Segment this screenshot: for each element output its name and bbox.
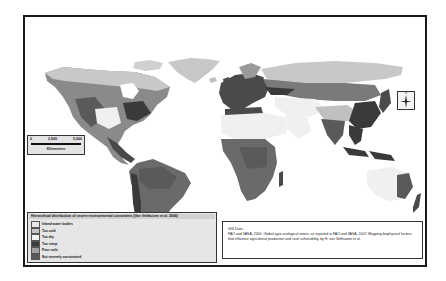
legend-label: Inland water bodies (42, 222, 73, 226)
map-frame: 0 2,500 5,000 Kilometers N Hierarchical … (23, 15, 427, 267)
scale-tick: 2,500 (48, 137, 57, 142)
sahara (221, 111, 287, 139)
legend-title: Hierarchical distribution of severe envi… (29, 214, 215, 219)
scale-bar: 0 2,500 5,000 Kilometers (27, 135, 85, 155)
source-heading: GIS Data: (228, 227, 243, 231)
legend-item: Not severely constrained (31, 254, 81, 261)
north-arrow: N (397, 91, 415, 110)
china-east (349, 101, 381, 129)
source-text: FAO and IIASA, 2000, Global agro-ecologi… (228, 232, 417, 242)
legend-items: Inland water bodies Too cold Too dry Too… (31, 221, 81, 260)
indonesia-2 (369, 151, 395, 161)
source-box: GIS Data: FAO and IIASA, 2000, Global ag… (222, 221, 423, 259)
india (321, 119, 345, 145)
north-arrow-icon (400, 95, 412, 108)
legend: Hierarchical distribution of severe envi… (27, 212, 217, 263)
iceland (209, 77, 217, 83)
arabia (285, 115, 311, 139)
legend-label: Not severely constrained (42, 255, 81, 259)
scale-bar-line (31, 143, 81, 145)
korea-japan (379, 89, 391, 113)
legend-label: Poor soils (42, 248, 58, 252)
scale-tick: 0 (30, 137, 32, 142)
legend-swatch (31, 254, 40, 261)
australia-east (397, 173, 413, 199)
scale-tick: 5,000 (73, 137, 82, 142)
scale-unit: Kilometers (28, 147, 84, 151)
scale-ticks: 0 2,500 5,000 (30, 137, 82, 142)
legend-label: Too steep (42, 242, 57, 246)
legend-label: Too dry (42, 235, 54, 239)
madagascar (279, 171, 283, 187)
canadian-arctic (133, 60, 163, 71)
new-zealand (413, 193, 421, 213)
indonesia-1 (343, 147, 369, 157)
legend-label: Too cold (42, 229, 56, 233)
